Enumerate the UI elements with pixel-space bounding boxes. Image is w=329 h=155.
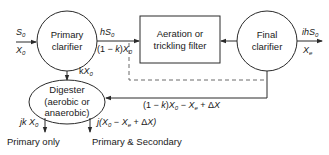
return-sludge-line [106,71,267,98]
digester-line2: (aerobic or [29,96,105,108]
caption-primary-only: Primary only [7,137,60,147]
one-minus-k-x0-label: (1 − k)X0 [97,44,132,54]
final-clarifier-line2: clarifier [237,41,297,53]
digester-label: Digester (aerobic or anaerobic) [29,84,105,119]
kx0-label: kX0 [79,66,93,76]
ihs0-label: ihS0 [302,27,318,37]
diagram-canvas [0,0,329,155]
hs0-label: hS0 [100,27,114,37]
xe-label: Xe [303,45,312,55]
secondary-output-label: j(X0 − Xe + ΔX) [97,117,156,127]
primary-clarifier-line1: Primary [37,29,97,41]
caption-primary-secondary: Primary & Secondary [92,137,182,147]
influent-x0-label: X0 [16,45,25,55]
primary-clarifier-label: Primary clarifier [37,29,97,53]
digester-line1: Digester [29,84,105,96]
final-clarifier-label: Final clarifier [237,29,297,53]
jkx0-label: jk X0 [20,117,38,127]
aeration-line2: trickling filter [140,40,220,52]
primary-clarifier-line2: clarifier [37,41,97,53]
return-sludge-label: (1 − k)X0 − Xe + ΔX [143,100,220,110]
aeration-label: Aeration or trickling filter [140,28,220,52]
aeration-line1: Aeration or [140,28,220,40]
final-clarifier-line1: Final [237,29,297,41]
digester-line3: anaerobic) [29,107,105,119]
influent-s0-label: S0 [16,27,25,37]
